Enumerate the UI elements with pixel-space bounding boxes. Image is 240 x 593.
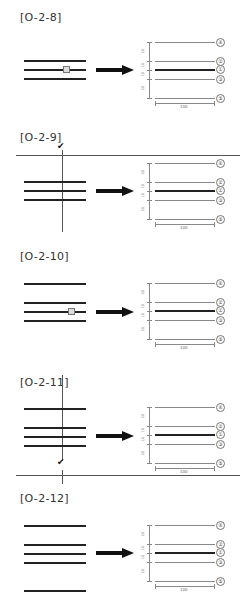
source-line [24,181,86,183]
circled-label: ③ [216,75,225,84]
panel-title: [O-2-10] [20,250,69,263]
circled-label: ③ [216,440,225,449]
circled-label: ④ [216,159,225,168]
dim-label: 20 [141,327,145,331]
panel-o-2-8: [O-2-8] 20 10 10 20 ④ ② ① ③ ⑤ 100 [0,0,240,115]
dim-label: 20 [141,207,145,211]
panel-title: [O-2-8] [20,11,62,24]
source-line [24,544,86,546]
circled-label: ① [216,65,225,74]
dim-label: 20 [141,290,145,294]
cut-line-vertical [62,375,63,461]
dim-label: 20 [141,569,145,573]
result-diagram: 20 10 10 20 ④ ② ① ③ ⑤ 100 [147,278,232,348]
dim-label: 10 [141,184,145,188]
result-diagram: 20 10 10 20 ④ ② ① ③ ⑤ 100 [147,520,232,590]
source-line [24,445,86,447]
dim-label: 10 [141,72,145,76]
dim-label: 10 [141,313,145,317]
square-marker [63,66,70,73]
circled-label: ① [216,548,225,557]
circled-label: ④ [216,403,225,412]
source-line [24,69,86,71]
panel-title: [O-2-9] [20,131,62,144]
circled-label: ④ [216,279,225,288]
source-line [24,283,86,285]
dim-label: 10 [141,428,145,432]
circled-label: ⑤ [216,94,225,103]
circled-label: ① [216,186,225,195]
dim-label: 20 [141,451,145,455]
dim-label: 20 [141,414,145,418]
dim-label: 20 [141,532,145,536]
right-arrow-icon [96,431,134,441]
circled-label: ③ [216,316,225,325]
panel-o-2-10: [O-2-10] 20 10 10 20 ④ ② ① ③ ⑤ 100 [0,230,240,348]
result-diagram: 20 10 10 20 ④ ② ① ③ ⑤ 100 [147,37,232,107]
source-line [24,408,86,410]
circled-label: ⑤ [216,577,225,586]
panel-o-2-9: [O-2-9] ✔ 20 10 10 20 ④ ② ① ③ ⑤ 100 [0,115,240,230]
source-line [24,311,86,313]
circled-label: ⑤ [216,335,225,344]
panel-o-2-11: [O-2-11] ✔ 20 10 10 20 ④ ② ① ③ ⑤ 100 [0,348,240,470]
circled-label: ① [216,306,225,315]
dim-label: 20 [141,86,145,90]
circled-label: ③ [216,196,225,205]
circled-label: ⑤ [216,459,225,468]
dim-label: 10 [141,304,145,308]
dim-label: 10 [141,437,145,441]
dim-label: 100 [180,104,188,109]
dim-label: 20 [141,170,145,174]
right-arrow-icon [96,186,134,196]
source-line [24,320,86,322]
source-line [24,190,86,192]
circled-label: ⑤ [216,215,225,224]
source-line [24,553,86,555]
source-line [24,60,86,62]
panel-o-2-12: [O-2-12] 20 10 10 20 ④ ② ① ③ ⑤ 100 [0,470,240,593]
source-line [24,436,86,438]
dim-label: 10 [141,193,145,197]
right-arrow-icon [96,548,134,558]
circled-label: ④ [216,38,225,47]
panel-title: [O-2-12] [20,492,69,505]
circled-label: ④ [216,521,225,530]
circled-label: ③ [216,558,225,567]
circled-label: ① [216,430,225,439]
result-diagram: 20 10 10 20 ④ ② ① ③ ⑤ 100 [147,402,232,472]
dim-label: 10 [141,555,145,559]
source-line [24,78,86,80]
square-marker [68,308,75,315]
source-line [24,525,86,527]
dim-label: 10 [141,546,145,550]
dim-label: 20 [141,49,145,53]
check-mark-icon: ✔ [57,141,65,151]
right-arrow-icon [96,307,134,317]
source-line [24,199,86,201]
source-line [24,302,86,304]
source-line [24,427,86,429]
right-arrow-icon [96,65,134,75]
result-diagram: 20 10 10 20 ④ ② ① ③ ⑤ 100 [147,158,232,228]
cut-line-horizontal [16,155,240,156]
dim-label: 100 [180,587,188,592]
source-line [24,562,86,564]
source-line [24,590,86,592]
dim-label: 10 [141,63,145,67]
check-mark-icon: ✔ [57,457,65,467]
